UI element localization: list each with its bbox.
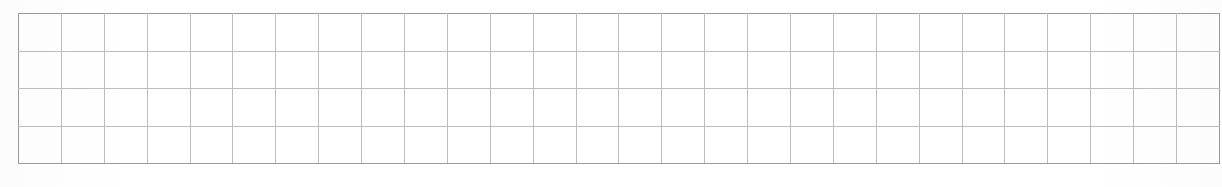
- grid-cell[interactable]: [1177, 126, 1220, 164]
- grid-cell[interactable]: [1048, 89, 1091, 127]
- grid-cell[interactable]: [233, 89, 276, 127]
- grid-cell[interactable]: [362, 89, 405, 127]
- grid-cell[interactable]: [1091, 89, 1134, 127]
- grid-cell[interactable]: [662, 51, 705, 89]
- grid-cell[interactable]: [319, 51, 362, 89]
- grid-cell[interactable]: [791, 51, 834, 89]
- grid-cell[interactable]: [1134, 126, 1177, 164]
- grid-cell[interactable]: [362, 14, 405, 52]
- grid-cell[interactable]: [533, 126, 576, 164]
- grid-cell[interactable]: [405, 14, 448, 52]
- grid-cell[interactable]: [190, 14, 233, 52]
- empty-grid-table[interactable]: [18, 13, 1220, 164]
- grid-cell[interactable]: [447, 51, 490, 89]
- grid-cell[interactable]: [876, 51, 919, 89]
- grid-cell[interactable]: [61, 14, 104, 52]
- grid-cell[interactable]: [1005, 14, 1048, 52]
- grid-cell[interactable]: [1177, 14, 1220, 52]
- grid-cell[interactable]: [61, 51, 104, 89]
- grid-cell[interactable]: [748, 126, 791, 164]
- grid-cell[interactable]: [962, 51, 1005, 89]
- grid-cell[interactable]: [233, 14, 276, 52]
- grid-cell[interactable]: [876, 126, 919, 164]
- grid-cell[interactable]: [833, 14, 876, 52]
- grid-cell[interactable]: [1091, 14, 1134, 52]
- grid-cell[interactable]: [576, 126, 619, 164]
- grid-cell[interactable]: [1091, 126, 1134, 164]
- grid-cell[interactable]: [705, 14, 748, 52]
- grid-cell[interactable]: [276, 89, 319, 127]
- grid-cell[interactable]: [962, 89, 1005, 127]
- grid-cell[interactable]: [1134, 89, 1177, 127]
- grid-cell[interactable]: [1048, 14, 1091, 52]
- grid-cell[interactable]: [1177, 89, 1220, 127]
- grid-cell[interactable]: [490, 14, 533, 52]
- grid-cell[interactable]: [19, 126, 62, 164]
- grid-cell[interactable]: [533, 14, 576, 52]
- grid-cell[interactable]: [619, 51, 662, 89]
- grid-cell[interactable]: [19, 14, 62, 52]
- grid-cell[interactable]: [1048, 126, 1091, 164]
- grid-cell[interactable]: [1005, 126, 1048, 164]
- grid-cell[interactable]: [319, 89, 362, 127]
- grid-cell[interactable]: [319, 14, 362, 52]
- grid-cell[interactable]: [705, 51, 748, 89]
- grid-cell[interactable]: [791, 89, 834, 127]
- grid-cell[interactable]: [147, 51, 190, 89]
- grid-cell[interactable]: [876, 89, 919, 127]
- grid-cell[interactable]: [662, 14, 705, 52]
- grid-cell[interactable]: [233, 51, 276, 89]
- grid-cell[interactable]: [405, 89, 448, 127]
- grid-cell[interactable]: [533, 51, 576, 89]
- grid-cell[interactable]: [190, 126, 233, 164]
- grid-cell[interactable]: [104, 89, 147, 127]
- grid-cell[interactable]: [1005, 51, 1048, 89]
- grid-cell[interactable]: [748, 14, 791, 52]
- grid-cell[interactable]: [1134, 14, 1177, 52]
- grid-cell[interactable]: [61, 89, 104, 127]
- grid-cell[interactable]: [147, 89, 190, 127]
- grid-cell[interactable]: [791, 126, 834, 164]
- grid-cell[interactable]: [705, 126, 748, 164]
- grid-cell[interactable]: [447, 126, 490, 164]
- grid-cell[interactable]: [362, 126, 405, 164]
- grid-cell[interactable]: [919, 126, 962, 164]
- grid-cell[interactable]: [61, 126, 104, 164]
- grid-cell[interactable]: [919, 14, 962, 52]
- grid-cell[interactable]: [1177, 51, 1220, 89]
- grid-cell[interactable]: [876, 14, 919, 52]
- grid-cell[interactable]: [190, 51, 233, 89]
- grid-cell[interactable]: [490, 51, 533, 89]
- grid-cell[interactable]: [576, 89, 619, 127]
- grid-cell[interactable]: [576, 51, 619, 89]
- grid-cell[interactable]: [919, 51, 962, 89]
- grid-cell[interactable]: [490, 89, 533, 127]
- grid-cell[interactable]: [104, 51, 147, 89]
- grid-cell[interactable]: [490, 126, 533, 164]
- grid-cell[interactable]: [962, 14, 1005, 52]
- grid-cell[interactable]: [919, 89, 962, 127]
- grid-cell[interactable]: [276, 51, 319, 89]
- grid-cell[interactable]: [533, 89, 576, 127]
- grid-cell[interactable]: [447, 14, 490, 52]
- grid-cell[interactable]: [319, 126, 362, 164]
- grid-cell[interactable]: [276, 126, 319, 164]
- grid-cell[interactable]: [1091, 51, 1134, 89]
- grid-cell[interactable]: [576, 14, 619, 52]
- grid-cell[interactable]: [104, 14, 147, 52]
- grid-cell[interactable]: [19, 89, 62, 127]
- grid-cell[interactable]: [833, 126, 876, 164]
- grid-cell[interactable]: [833, 51, 876, 89]
- grid-cell[interactable]: [104, 126, 147, 164]
- grid-cell[interactable]: [619, 89, 662, 127]
- grid-cell[interactable]: [619, 14, 662, 52]
- grid-cell[interactable]: [147, 14, 190, 52]
- grid-cell[interactable]: [962, 126, 1005, 164]
- grid-cell[interactable]: [705, 89, 748, 127]
- grid-cell[interactable]: [405, 126, 448, 164]
- grid-cell[interactable]: [447, 89, 490, 127]
- grid-cell[interactable]: [662, 126, 705, 164]
- grid-cell[interactable]: [19, 51, 62, 89]
- grid-cell[interactable]: [233, 126, 276, 164]
- grid-cell[interactable]: [1134, 51, 1177, 89]
